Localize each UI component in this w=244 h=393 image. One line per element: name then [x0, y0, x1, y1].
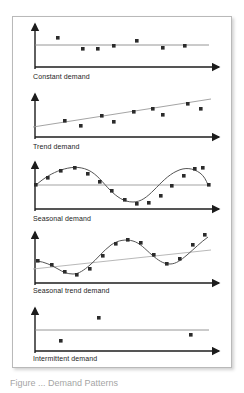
data-markers — [59, 316, 193, 343]
plot-intermittent-demand — [13, 303, 233, 357]
panel-label-constant-demand: Constant demand — [33, 73, 90, 80]
data-markers — [56, 36, 187, 51]
panel-intermittent-demand: Intermittent demand — [13, 303, 233, 369]
chart-trend-demand — [13, 89, 233, 143]
panel-constant-demand: Constant demand — [13, 19, 233, 89]
panel-label-seasonal-trend-demand: Seasonal trend demand — [33, 287, 109, 294]
plot-trend-demand — [13, 89, 233, 143]
seasonal-trend-curve — [37, 237, 208, 274]
trend-line — [33, 250, 211, 269]
chart-intermittent-demand — [13, 303, 233, 357]
plot-seasonal-demand — [13, 159, 233, 215]
panel-seasonal-demand: Seasonal demand — [13, 159, 233, 229]
chart-seasonal-trend-demand — [13, 229, 233, 289]
chart-constant-demand — [13, 19, 233, 73]
panel-label-trend-demand: Trend demand — [33, 143, 79, 150]
data-markers — [63, 102, 203, 128]
panel-label-seasonal-demand: Seasonal demand — [33, 215, 91, 222]
data-markers — [36, 233, 207, 277]
plot-seasonal-trend-demand — [13, 229, 233, 289]
panel-label-intermittent-demand: Intermittent demand — [33, 355, 97, 362]
figure-caption: Figure ... Demand Patterns — [10, 378, 238, 388]
figure-frame: Constant demand — [12, 16, 232, 368]
panel-trend-demand: Trend demand — [13, 89, 233, 159]
trend-line — [33, 99, 211, 127]
chart-seasonal-demand — [13, 159, 233, 215]
plot-constant-demand — [13, 19, 233, 73]
panel-seasonal-trend-demand: Seasonal trend demand — [13, 229, 233, 303]
